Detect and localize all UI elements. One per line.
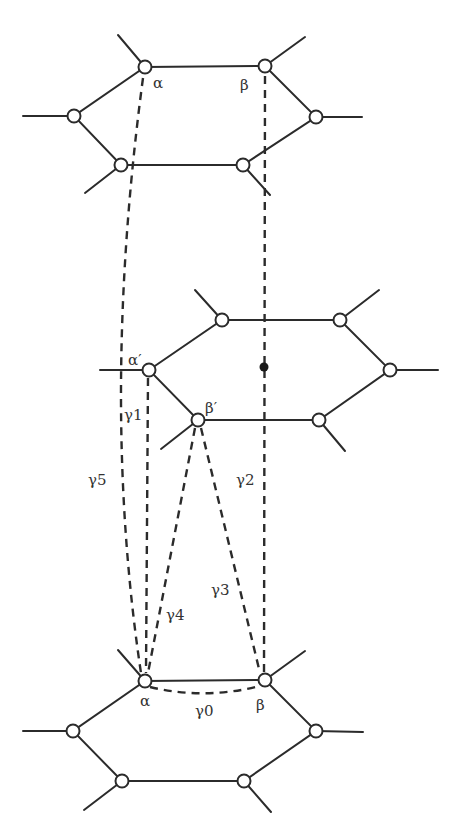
label-gamma4: γ4 [166, 606, 185, 624]
center-dot [260, 363, 269, 372]
label-alpha-prime: α′ [128, 351, 142, 369]
label-beta-prime: β′ [205, 399, 218, 417]
label-beta-bottom: β [256, 696, 265, 714]
path-gamma0 [150, 686, 260, 693]
label-gamma3: γ3 [211, 581, 230, 599]
label-gamma5: γ5 [88, 471, 107, 489]
path-gamma3 [201, 428, 260, 673]
nodes [67, 60, 397, 788]
hexagon-path-diagram: α β α′ β′ γ1 γ5 γ2 γ3 γ4 α γ0 β [0, 0, 461, 840]
label-beta-top: β [240, 76, 249, 94]
label-gamma1: γ1 [124, 406, 143, 424]
path-gamma1 [146, 378, 148, 673]
label-alpha-top: α [153, 74, 163, 92]
path-gamma4 [148, 428, 195, 673]
label-alpha-bottom: α [140, 692, 150, 710]
label-gamma2: γ2 [236, 471, 255, 489]
path-gamma2 [264, 76, 265, 673]
label-gamma0: γ0 [195, 702, 214, 720]
